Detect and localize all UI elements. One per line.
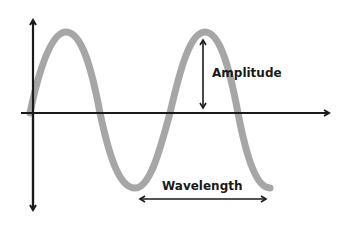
sine-wave xyxy=(30,32,270,188)
wave-diagram-graphics xyxy=(0,0,348,230)
amplitude-label: Amplitude xyxy=(212,66,282,80)
wave-diagram: Amplitude Wavelength xyxy=(0,0,348,230)
wavelength-label: Wavelength xyxy=(162,179,243,193)
